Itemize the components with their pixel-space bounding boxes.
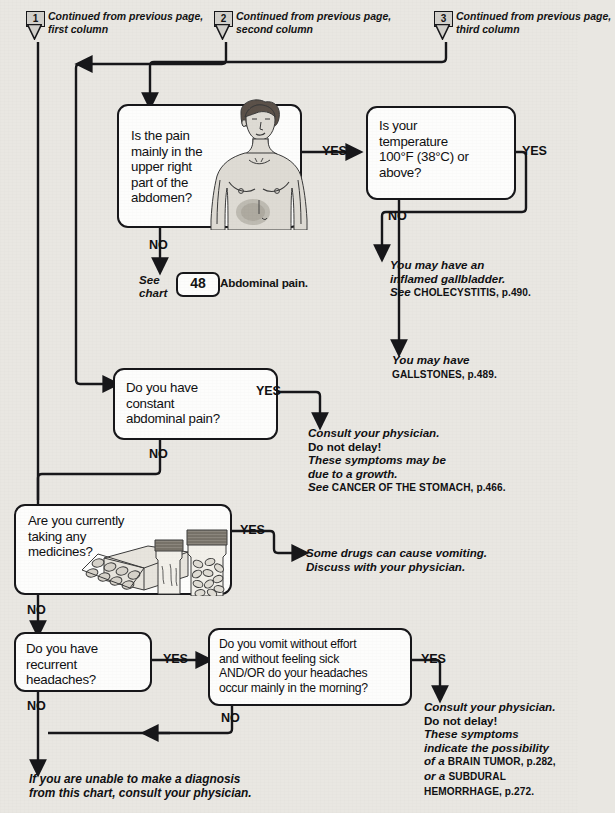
no-label-temperature: NO bbox=[388, 210, 407, 223]
question-text-constant-pain: Do you have constant abdominal pain? bbox=[126, 380, 272, 427]
connector-3-label: Continued from previous page, third colu… bbox=[456, 10, 615, 35]
no-label-upper-right-pain: NO bbox=[149, 239, 168, 252]
question-text-vomit-without-effort: Do you vomit without effort and without … bbox=[219, 637, 409, 695]
outcome-cancer-reference: CANCER OF THE STOMACH, p.466. bbox=[332, 482, 506, 493]
outcome-cholecystitis-line-3: See bbox=[390, 285, 414, 298]
final-note-line-2: from this chart, consult your physician. bbox=[29, 786, 252, 800]
yes-label-constant-pain: YES bbox=[256, 385, 281, 398]
outcome-brain-line-3: These symptoms bbox=[424, 727, 519, 740]
yes-label-upper-right-pain: YES bbox=[322, 145, 347, 158]
outcome-cholecystitis-line-2: inflamed gallbladder. bbox=[390, 272, 505, 285]
outcome-brain-tumor: Consult your physician. Do not delay! Th… bbox=[424, 700, 578, 798]
connector-1-arrow bbox=[27, 24, 42, 40]
outcome-brain-line-5: of a bbox=[424, 754, 448, 767]
no-label-medicines: NO bbox=[27, 604, 46, 617]
outcome-cancer-line-3: These symptoms may be bbox=[308, 453, 446, 466]
question-text-temperature: Is your temperature 100°F (38°C) or abov… bbox=[379, 118, 507, 180]
outcome-gallstones-reference: GALLSTONES, p.489. bbox=[392, 369, 497, 380]
outcome-cancer-line-1: Consult your physician. bbox=[308, 426, 439, 439]
yes-label-temperature: YES bbox=[522, 145, 547, 158]
yes-label-vomit-without-effort: YES bbox=[421, 653, 446, 666]
outcome-brain-line-6: or a bbox=[424, 769, 448, 782]
yes-label-recurrent-headaches: YES bbox=[163, 653, 188, 666]
outcome-brain-tumor-reference: BRAIN TUMOR, p.282, bbox=[448, 756, 556, 767]
outcome-cholecystitis-line-1: You may have an bbox=[390, 258, 484, 271]
outcome-gallstones: You may have GALLSTONES, p.489. bbox=[392, 353, 572, 381]
question-text-recurrent-headaches: Do you have recurrent headaches? bbox=[26, 641, 146, 688]
outcome-brain-line-4: indicate the possibility bbox=[424, 741, 549, 754]
outcome-drugs-line-1: Some drugs can cause vomiting. bbox=[306, 546, 487, 559]
connector-3-arrow bbox=[435, 24, 450, 40]
no-label-vomit-without-effort: NO bbox=[221, 712, 240, 725]
connector-2-label: Continued from previous page, second col… bbox=[236, 10, 406, 35]
outcome-cancer-line-2: Do not delay! bbox=[308, 440, 381, 453]
outcome-brain-line-2: Do not delay! bbox=[424, 714, 497, 727]
outcome-subdural-label: SUBDURAL bbox=[448, 771, 505, 782]
outcome-drugs-vomiting: Some drugs can cause vomiting. Discuss w… bbox=[306, 546, 536, 573]
outcome-hemorrhage-reference: HEMORRHAGE, p.272. bbox=[424, 786, 534, 797]
outcome-drugs-line-2: Discuss with your physician. bbox=[306, 560, 465, 573]
final-note-line-1: If you are unable to make a diagnosis bbox=[29, 772, 240, 786]
connector-2-arrow bbox=[215, 24, 230, 40]
chart-name-label: Abdominal pain. bbox=[220, 276, 308, 289]
no-label-recurrent-headaches: NO bbox=[27, 700, 46, 713]
outcome-gallstones-line-1: You may have bbox=[392, 353, 470, 366]
outcome-cholecystitis-reference: CHOLECYSTITIS, p.490. bbox=[414, 287, 531, 298]
chart-number-48[interactable]: 48 bbox=[176, 272, 220, 297]
outcome-cholecystitis: You may have an inflamed gallbladder. Se… bbox=[390, 258, 570, 300]
outcome-brain-line-1: Consult your physician. bbox=[424, 700, 555, 713]
connector-1-label: Continued from previous page, first colu… bbox=[48, 10, 218, 35]
outcome-cancer-line-5: See bbox=[308, 480, 332, 493]
see-chart-prefix: Seechart bbox=[139, 274, 167, 299]
no-label-constant-pain: NO bbox=[149, 448, 168, 461]
torso-abdomen-illustration bbox=[205, 96, 313, 230]
yes-label-medicines: YES bbox=[240, 524, 265, 537]
final-advice-note: If you are unable to make a diagnosis fr… bbox=[29, 772, 329, 800]
outcome-cancer-line-4: due to a growth. bbox=[308, 467, 398, 480]
medicine-bottles-illustration bbox=[70, 520, 232, 596]
outcome-cancer-stomach: Consult your physician. Do not delay! Th… bbox=[308, 426, 538, 495]
